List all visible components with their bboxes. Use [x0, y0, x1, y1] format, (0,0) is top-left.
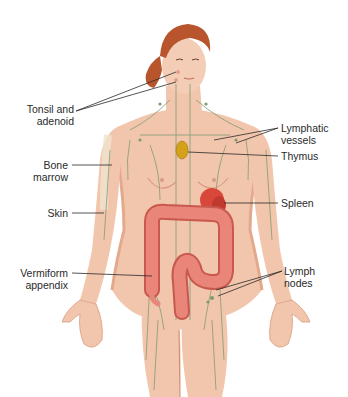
- label-thymus: Thymus: [281, 150, 347, 162]
- label-lymph-nodes: Lymph nodes: [284, 265, 344, 289]
- label-skin: Skin: [4, 207, 68, 219]
- right-arm: [62, 125, 122, 347]
- bone-marrow-humerus: [104, 135, 108, 210]
- head: [146, 24, 210, 112]
- label-spleen: Spleen: [281, 197, 347, 209]
- label-bone-marrow: Bone marrow: [4, 159, 68, 183]
- tonsil-marker: [176, 70, 180, 74]
- label-lymphatic-vessels: Lymphatic vessels: [281, 122, 347, 146]
- thymus-organ: [176, 141, 188, 159]
- label-tonsil-and-adenoid: Tonsil and adenoid: [4, 103, 74, 127]
- label-vermiform-appendix: Vermiform appendix: [2, 267, 68, 291]
